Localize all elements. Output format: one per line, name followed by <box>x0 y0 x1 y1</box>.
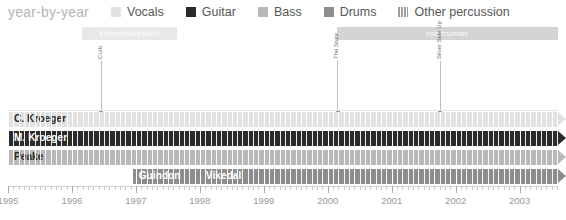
gridline-minor <box>360 112 361 188</box>
gridline-minor <box>56 112 57 188</box>
gridline-minor <box>205 112 206 188</box>
axis-tick-minor <box>248 186 249 190</box>
gridline-minor <box>370 112 371 188</box>
gridline-minor <box>216 112 217 188</box>
gridline-minor <box>13 112 14 188</box>
axis-tick-minor <box>424 186 425 190</box>
gridline-minor <box>269 112 270 188</box>
year-by-year-timeline-chart: year-by-year VocalsGuitarBassDrumsOther … <box>0 0 566 220</box>
axis-tick-minor <box>509 186 510 190</box>
axis-tick-minor <box>274 186 275 190</box>
gridline-minor <box>381 112 382 188</box>
gridline-major <box>136 112 137 188</box>
axis-tick-minor <box>125 186 126 190</box>
gridline-minor <box>493 112 494 188</box>
axis-tick-minor <box>498 186 499 190</box>
era-band-shoreline-select: shoreline/select <box>82 27 178 40</box>
gridline-major <box>392 112 393 188</box>
gridline-minor <box>93 112 94 188</box>
axis-tick-minor <box>253 186 254 190</box>
release-marker-label: Silver Side Up <box>436 21 442 59</box>
gridline-minor <box>109 112 110 188</box>
gridline-minor <box>434 112 435 188</box>
axis-tick-minor <box>45 186 46 190</box>
x-axis: 199519961997199819992000200120022003 <box>0 186 566 216</box>
gridline-minor <box>418 112 419 188</box>
gridline-minor <box>557 112 558 188</box>
gridline-minor <box>354 112 355 188</box>
axis-tick-minor <box>445 186 446 190</box>
release-markers: CurbThe StateSilver Side Up <box>0 41 566 113</box>
gridline-minor <box>525 112 526 188</box>
axis-tick-minor <box>546 186 547 190</box>
gridline-minor <box>440 112 441 188</box>
axis-tick-label: 2003 <box>509 195 530 206</box>
striped-swatch <box>398 7 408 17</box>
member-rows: C. KroegerM. KroegerPeakeGuindonVikedal <box>0 112 566 188</box>
legend-item-guitar: Guitar <box>186 5 236 19</box>
gridline-minor <box>461 112 462 188</box>
axis-tick-minor <box>109 186 110 190</box>
legend-item-bass: Bass <box>258 5 302 19</box>
axis-tick-label: 2001 <box>381 195 402 206</box>
gridline-minor <box>536 112 537 188</box>
member-bar-m-kroeger[interactable]: M. Kroeger <box>8 131 558 146</box>
axis-tick-minor <box>338 186 339 190</box>
member-bar-c-kroeger[interactable]: C. Kroeger <box>8 112 558 127</box>
gridline-minor <box>408 112 409 188</box>
legend-item-other-percussion: Other percussion <box>398 5 509 19</box>
axis-tick-minor <box>466 186 467 190</box>
gridline-minor <box>349 112 350 188</box>
axis-tick-label: 2002 <box>445 195 466 206</box>
gridline-minor <box>514 112 515 188</box>
gridline-minor <box>504 112 505 188</box>
gridline-minor <box>163 112 164 188</box>
gridline-minor <box>179 112 180 188</box>
axis-tick-minor <box>482 186 483 190</box>
gridline-minor <box>173 112 174 188</box>
gridline-minor <box>530 112 531 188</box>
gridline-minor <box>131 112 132 188</box>
axis-tick-minor <box>381 186 382 190</box>
gridline-minor <box>61 112 62 188</box>
axis-tick-minor <box>552 186 553 190</box>
gridline-minor <box>296 112 297 188</box>
member-bar-label: Guindon <box>139 170 181 181</box>
axis-tick-minor <box>51 186 52 190</box>
member-bar-peake[interactable]: Peake <box>8 150 558 165</box>
gridline-minor <box>19 112 20 188</box>
axis-tick-minor <box>360 186 361 190</box>
axis-tick-minor <box>157 186 158 190</box>
axis-tick-minor <box>179 186 180 190</box>
square-swatch <box>324 7 334 17</box>
axis-tick-minor <box>322 186 323 190</box>
axis-tick-minor <box>536 186 537 190</box>
gridline-minor <box>285 112 286 188</box>
gridline-minor <box>227 112 228 188</box>
axis-tick-minor <box>232 186 233 190</box>
gridline-minor <box>141 112 142 188</box>
gridline-minor <box>120 112 121 188</box>
axis-tick-minor <box>221 186 222 190</box>
axis-tick-label: 2000 <box>317 195 338 206</box>
release-marker-label: The State <box>333 33 339 59</box>
gridline-minor <box>552 112 553 188</box>
gridline-minor <box>397 112 398 188</box>
gridline-minor <box>51 112 52 188</box>
gridline-minor <box>29 112 30 188</box>
member-bars: C. KroegerM. KroegerPeakeGuindonVikedal <box>0 112 566 188</box>
axis-tick-label: 1996 <box>61 195 82 206</box>
axis-tick-minor <box>370 186 371 190</box>
axis-tick-minor <box>13 186 14 190</box>
gridline-minor <box>125 112 126 188</box>
legend-items: VocalsGuitarBassDrumsOther percussion <box>111 5 532 19</box>
legend-item-drums: Drums <box>324 5 377 19</box>
axis-tick-major <box>72 186 73 193</box>
axis-baseline <box>8 186 558 187</box>
gridline-minor <box>450 112 451 188</box>
axis-tick-minor <box>344 186 345 190</box>
gridline-minor <box>477 112 478 188</box>
gridline-minor <box>466 112 467 188</box>
axis-tick-minor <box>290 186 291 190</box>
release-marker-silver-side-up: Silver Side Up <box>440 41 441 113</box>
